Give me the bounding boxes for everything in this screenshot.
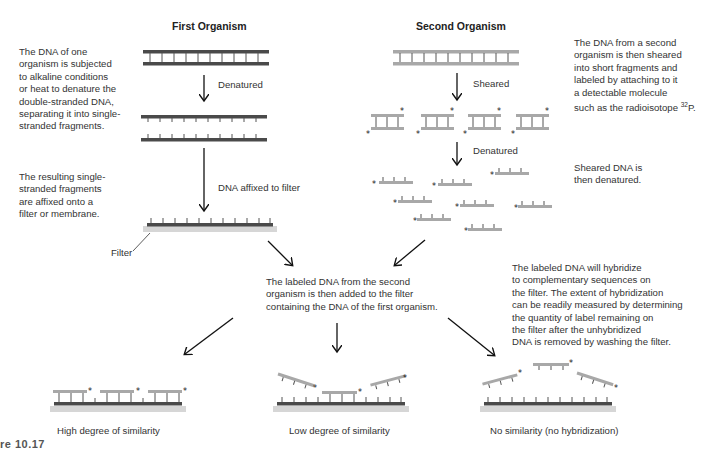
first-organism-filter [133,218,277,251]
arrow-filter-to-combine [268,241,292,265]
svg-text:*: * [88,387,92,396]
sheared-fragment: ** [416,107,454,139]
sheared-fragments: ** ** ** ** [366,107,549,139]
svg-text:*: * [313,384,317,393]
svg-text:*: * [545,107,549,116]
svg-text:*: * [416,130,420,139]
svg-text:*: * [366,130,370,139]
sheared-fragment: ** [366,107,404,139]
svg-text:*: * [413,217,417,226]
sheared-fragment: ** [463,107,501,139]
denatured-fragments: * * * * * * * * [372,168,552,236]
svg-text:*: * [490,171,494,180]
first-organism-dsdna [143,50,269,66]
sheared-fragment: ** [511,107,549,139]
svg-text:*: * [497,107,501,116]
ss-fragment: * [490,168,529,180]
svg-text:*: * [403,374,407,383]
ss-fragment: * [464,224,502,236]
hybridization-diagram: ** ** ** ** * * * * * * * * [0,0,709,450]
outcome-low-diagram: * * * [273,373,409,412]
arrow-to-no-similarity [448,318,494,355]
arrow-fragments-to-combine [395,240,425,265]
svg-text:*: * [432,182,436,191]
outcome-no-diagram: * * * [480,359,618,412]
svg-text:*: * [372,180,376,189]
svg-text:*: * [400,107,404,116]
svg-text:*: * [514,204,518,213]
svg-text:*: * [450,107,454,116]
first-organism-ssdna [141,115,267,142]
second-organism-dsdna [393,50,519,66]
svg-text:*: * [614,384,618,393]
ss-fragment: * [455,200,494,212]
ss-fragment: * [514,201,552,213]
ss-fragment: * [393,196,432,208]
svg-text:*: * [518,369,522,378]
svg-text:*: * [183,387,187,396]
outcome-high-diagram: *** [50,387,187,412]
svg-text:*: * [393,199,397,208]
svg-text:*: * [455,203,459,212]
svg-text:*: * [569,359,573,368]
arrow-to-high-similarity [185,318,233,354]
ss-fragment: * [432,179,472,191]
ss-fragment: * [372,177,413,189]
svg-text:*: * [464,227,468,236]
ss-fragment: * [413,214,451,226]
svg-text:*: * [358,388,362,397]
filter-pointer-line [133,233,150,251]
svg-text:*: * [463,130,467,139]
svg-text:*: * [511,130,515,139]
svg-text:*: * [136,387,140,396]
